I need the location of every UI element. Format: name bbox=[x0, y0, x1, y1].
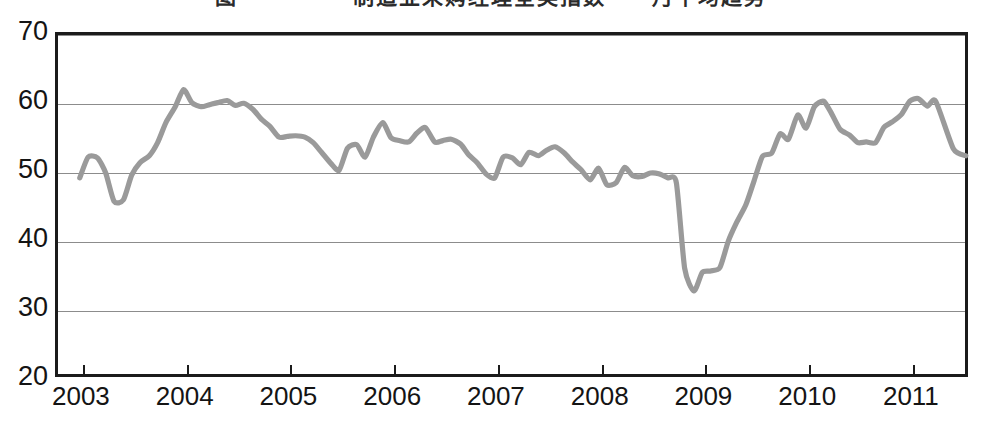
chart-figure: 图一 制造业采购经理全美指数 月平均趋势 203040506070 200320… bbox=[0, 0, 982, 438]
x-tick-label-2010: 2010 bbox=[752, 383, 862, 409]
plot-area bbox=[55, 32, 968, 377]
plot-inner bbox=[58, 35, 965, 374]
x-tick-label-2005: 2005 bbox=[233, 383, 343, 409]
x-tick-label-2004: 2004 bbox=[130, 383, 240, 409]
x-tick-label-2011: 2011 bbox=[856, 383, 966, 409]
x-tick-label-2007: 2007 bbox=[441, 383, 551, 409]
x-tick-label-2003: 2003 bbox=[26, 383, 136, 409]
x-tick-label-2009: 2009 bbox=[648, 383, 758, 409]
series-plot bbox=[58, 35, 971, 380]
x-tick-label-2008: 2008 bbox=[545, 383, 655, 409]
series-line-pmi bbox=[80, 89, 966, 291]
x-tick-label-2006: 2006 bbox=[337, 383, 447, 409]
